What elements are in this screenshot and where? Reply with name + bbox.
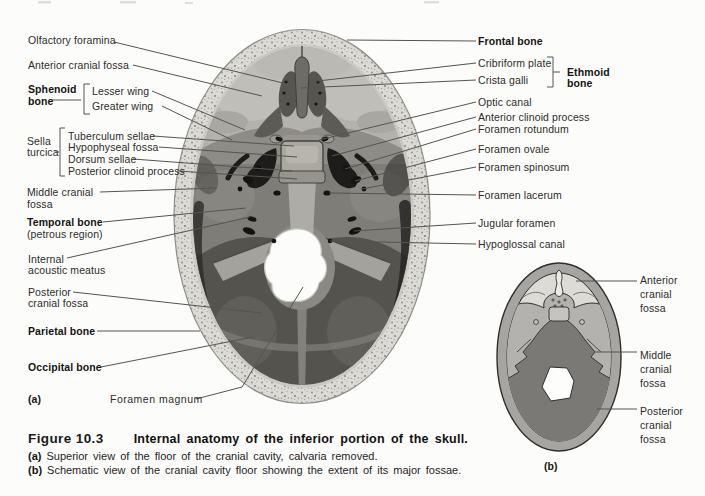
- foramen-lacerum-opening: [273, 190, 280, 195]
- label-b-anterior-line1: Anterior: [640, 275, 678, 286]
- label-temporal-bone: Temporal bone: [27, 217, 103, 228]
- caption-title: Internal anatomy of the inferior portion…: [134, 432, 468, 446]
- skull-panel-b: [497, 263, 621, 451]
- label-sphenoid-bone-line2: bone: [28, 96, 53, 107]
- bracket-sphenoid: [84, 84, 90, 114]
- caption-b-marker: (b): [28, 464, 42, 476]
- leader-frontal-bone: [347, 40, 476, 41]
- label-foramen-spinosum: Foramen spinosum: [478, 162, 569, 173]
- label-dorsum-sellae: Dorsum sellae: [68, 154, 136, 165]
- caption-line-b: (b)Schematic view of the cranial cavity …: [28, 464, 461, 476]
- figure-page: Olfactory foramina Anterior cranial foss…: [0, 0, 705, 496]
- caption-figure-label: Figure 10.3: [28, 431, 104, 446]
- caption-b-text: Schematic view of the cranial cavity flo…: [47, 464, 461, 476]
- label-temporal-bone-sub: (petrous region): [27, 229, 103, 240]
- label-sphenoid-bone-line1: Sphenoid: [28, 84, 77, 95]
- label-occipital-bone: Occipital bone: [28, 362, 102, 373]
- label-b-posterior-line1: Posterior: [640, 406, 683, 417]
- schematic-sella: [549, 307, 569, 321]
- label-greater-wing: Greater wing: [92, 101, 153, 112]
- label-foramen-magnum: Foramen magnum: [110, 394, 203, 405]
- label-parietal-bone: Parietal bone: [28, 326, 95, 337]
- label-jugular-foramen: Jugular foramen: [478, 218, 555, 229]
- label-cribriform-plate: Cribriform plate: [478, 58, 551, 69]
- label-sella-turcica-line2: turcica: [27, 147, 59, 158]
- label-foramen-lacerum: Foramen lacerum: [478, 190, 562, 201]
- label-posterior-clinoid-process: Posterior clinoid process: [68, 166, 185, 177]
- label-anterior-clinoid-process: Anterior clinoid process: [478, 112, 590, 123]
- label-olfactory-foramina: Olfactory foramina: [28, 35, 116, 46]
- label-middle-cranial-fossa-line1: Middle cranial: [27, 187, 93, 198]
- label-internal-acoustic-meatus-line2: acoustic meatus: [28, 265, 105, 276]
- label-posterior-cranial-fossa-a-line2: cranial fossa: [28, 298, 88, 309]
- label-b-middle-line1: Middle: [640, 350, 672, 361]
- hypoglossal-canal-opening: [272, 239, 277, 244]
- label-hypophyseal-fossa: Hypophyseal fossa: [68, 142, 158, 153]
- bracket-sella: [60, 128, 65, 176]
- label-b-posterior-line2: cranial: [640, 420, 672, 431]
- label-b-anterior-line2: cranial: [640, 289, 672, 300]
- label-hypoglossal-canal: Hypoglossal canal: [478, 239, 565, 250]
- foramen-spinosum-opening: [238, 187, 243, 192]
- scan-artifacts: [38, 1, 439, 4]
- marker-panel-a: (a): [28, 394, 41, 405]
- label-b-anterior-line3: fossa: [640, 303, 666, 314]
- marker-panel-b: (b): [544, 461, 558, 472]
- label-ethmoid-bone-line2: bone: [567, 78, 592, 89]
- clivus: [288, 180, 316, 236]
- label-optic-canal: Optic canal: [478, 97, 532, 108]
- label-crista-galli: Crista galli: [478, 75, 528, 86]
- label-b-middle-line3: fossa: [640, 378, 666, 389]
- caption-a-text: Superior view of the floor of the crania…: [46, 450, 377, 462]
- label-b-middle-line2: cranial: [640, 364, 672, 375]
- label-frontal-bone: Frontal bone: [478, 36, 543, 47]
- caption-title-row: Figure 10.3Internal anatomy of the infer…: [28, 429, 468, 447]
- label-b-posterior-line3: fossa: [640, 434, 666, 445]
- caption-a-marker: (a): [28, 450, 41, 462]
- label-foramen-ovale: Foramen ovale: [478, 144, 549, 155]
- label-middle-cranial-fossa-line2: fossa: [27, 199, 53, 210]
- skull-panel-a: [174, 30, 430, 405]
- label-anterior-cranial-fossa: Anterior cranial fossa: [28, 60, 129, 71]
- label-foramen-rotundum: Foramen rotundum: [478, 124, 569, 135]
- label-lesser-wing: Lesser wing: [92, 86, 149, 97]
- caption-line-a: (a)Superior view of the floor of the cra…: [28, 450, 377, 462]
